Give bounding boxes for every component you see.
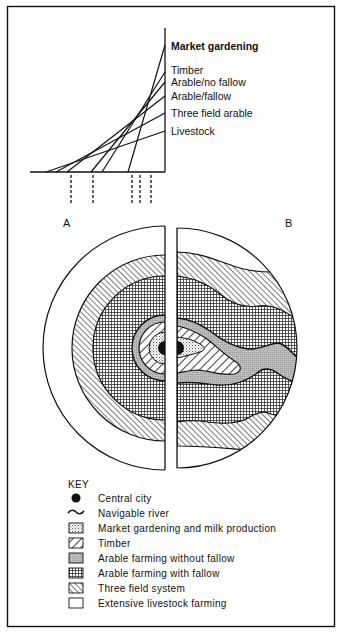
- navigable-river-icon: [68, 510, 84, 514]
- fine-diagonal-hatch-icon: [69, 583, 83, 593]
- key-label-central-city: Central city: [98, 493, 152, 504]
- label-market-gardening: Market gardening: [171, 40, 259, 52]
- key-title: KEY: [68, 479, 89, 490]
- line-arable-no-fallow: [91, 82, 165, 172]
- blank-box-icon: [69, 598, 83, 608]
- label-three-field-arable: Three field arable: [171, 107, 253, 119]
- label-arable-fallow: Arable/fallow: [171, 90, 232, 102]
- key-label-arable-fallow: Arable farming with fallow: [98, 568, 220, 579]
- line-market-gardening: [128, 45, 165, 172]
- key-label-arable-no-fallow: Arable farming without fallow: [98, 553, 235, 564]
- zone-boundary-dashes: [71, 175, 151, 204]
- key: KEY Central city Navigable river Market …: [68, 479, 276, 609]
- central-city-dot-icon: [72, 494, 81, 503]
- key-label-extensive-livestock: Extensive livestock farming: [98, 598, 227, 609]
- stipple-pattern-icon: [69, 523, 83, 533]
- key-label-three-field: Three field system: [98, 583, 185, 594]
- grey-fill-icon: [69, 553, 83, 563]
- rent-lines: [46, 45, 165, 172]
- label-livestock: Livestock: [171, 125, 216, 137]
- panel-label-b: B: [285, 217, 292, 229]
- key-label-market-gardening: Market gardening and milk production: [98, 523, 276, 534]
- bid-rent-chart: Market gardening Timber Arable/no fallow…: [30, 28, 259, 204]
- wide-diagonal-hatch-icon: [69, 538, 83, 548]
- label-timber: Timber: [171, 64, 204, 76]
- key-label-navigable-river: Navigable river: [98, 508, 170, 519]
- grid-pattern-icon: [69, 568, 83, 578]
- line-timber: [102, 72, 165, 172]
- line-arable-fallow: [67, 96, 165, 172]
- label-arable-no-fallow: Arable/no fallow: [171, 76, 246, 88]
- key-label-timber: Timber: [98, 538, 131, 549]
- figure: Market gardening Timber Arable/no fallow…: [0, 0, 342, 636]
- panel-label-a: A: [63, 217, 71, 229]
